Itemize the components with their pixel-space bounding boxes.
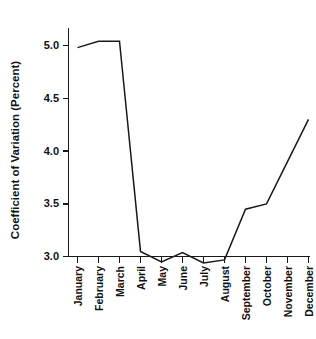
y-tick-label: 5.0 <box>44 39 59 51</box>
x-tick-label-august: August <box>219 266 231 303</box>
x-tick-label-july: July <box>198 266 210 287</box>
x-tick-label-may: May <box>156 266 168 287</box>
chart-figure: Coefficient of Variation (Percent) 5.0 4… <box>0 0 316 339</box>
x-tick-label-december: December <box>303 266 315 317</box>
x-tick-label-october: October <box>261 266 273 306</box>
y-tick-label: 3.5 <box>44 197 59 209</box>
x-tick-label-group: January February March April May June Ju… <box>72 266 315 321</box>
x-tick-label-september: September <box>240 266 252 320</box>
line-chart: Coefficient of Variation (Percent) 5.0 4… <box>0 0 316 339</box>
x-tick-label-march: March <box>114 266 126 297</box>
x-tick-label-june: June <box>177 266 189 291</box>
x-tick-label-february: February <box>93 266 105 311</box>
y-tick-label: 4.0 <box>44 145 59 157</box>
y-tick-label: 4.5 <box>44 92 59 104</box>
y-tick-group: 5.0 4.5 4.0 3.5 3.0 <box>44 39 69 262</box>
x-tick-label-april: April <box>135 266 147 290</box>
x-tick-label-november: November <box>282 266 294 317</box>
data-series-line <box>78 41 309 263</box>
y-axis-label: Coefficient of Variation (Percent) <box>9 61 21 239</box>
x-tick-label-january: January <box>72 266 84 306</box>
y-tick-label: 3.0 <box>44 250 59 262</box>
